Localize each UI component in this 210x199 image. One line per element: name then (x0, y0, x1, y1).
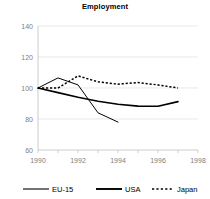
xtick-label-1994: 1994 (110, 157, 126, 164)
legend-label-eu-15: EU-15 (52, 185, 73, 194)
ytick-label-100: 100 (21, 85, 33, 92)
series-line-eu-15 (38, 78, 118, 122)
ytick-label-80: 80 (25, 116, 33, 123)
employment-chart: Employment 140 120 (0, 0, 210, 199)
y-tick-labels: 140 120 100 80 60 (21, 23, 33, 154)
xtick-label-1996: 1996 (150, 157, 166, 164)
legend-label-japan: Japan (177, 185, 197, 194)
data-series (38, 76, 178, 122)
legend-label-usa: USA (125, 185, 140, 194)
chart-legend: EU-15 USA Japan (23, 185, 197, 194)
x-tick-labels: 1990 1992 1994 1996 1998 (30, 157, 206, 164)
xtick-label-1990: 1990 (30, 157, 46, 164)
series-line-japan (38, 76, 178, 88)
ytick-label-120: 120 (21, 54, 33, 61)
x-tickmarks (38, 150, 198, 153)
chart-plot-area: 140 120 100 80 60 1990 1992 1994 1996 19… (0, 0, 210, 199)
xtick-label-1998: 1998 (190, 157, 206, 164)
ytick-label-140: 140 (21, 23, 33, 30)
xtick-label-1992: 1992 (70, 157, 86, 164)
ytick-label-60: 60 (25, 147, 33, 154)
series-line-usa (38, 88, 178, 106)
